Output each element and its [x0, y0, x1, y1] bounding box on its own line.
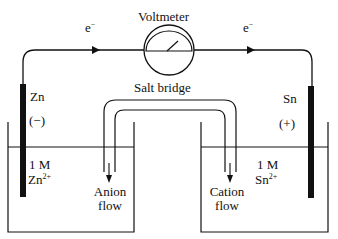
electron-label-left: e−: [85, 21, 95, 35]
left-ion-label: Zn2+: [28, 173, 51, 187]
cation-flow-label: Cation flow: [205, 185, 249, 213]
sn-polarity-label: (+): [279, 117, 295, 131]
right-ion-label: Sn2+: [255, 173, 277, 187]
salt-bridge-outer: [104, 100, 236, 172]
galvanic-cell-diagram: Voltmeter e− e− Salt bridge Zn (−) Sn (+…: [0, 0, 338, 239]
electron-arrow-right: [247, 46, 255, 54]
sn-electrode-label: Sn: [283, 92, 297, 106]
salt-bridge-label: Salt bridge: [134, 81, 191, 95]
right-concentration-label: 1 M: [257, 158, 278, 172]
zn-electrode-label: Zn: [30, 90, 44, 104]
electron-arrow-left: [92, 46, 100, 54]
anion-flow-label: Anion flow: [90, 185, 130, 213]
external-wire-left: [23, 50, 144, 85]
cation-flow-arrow: [227, 175, 233, 183]
salt-bridge-inner: [115, 110, 225, 172]
zn-electrode: [20, 84, 26, 197]
zn-polarity-label: (−): [29, 114, 45, 128]
left-concentration-label: 1 M: [29, 158, 50, 172]
anion-flow-arrow: [106, 175, 112, 183]
sn-electrode: [308, 86, 314, 198]
voltmeter-icon: [144, 25, 194, 75]
external-wire-right: [194, 50, 312, 86]
voltmeter-label: Voltmeter: [138, 10, 189, 24]
electron-label-right: e−: [243, 21, 253, 35]
